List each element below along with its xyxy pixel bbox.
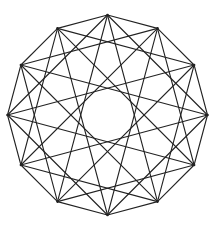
vertex-dot [106, 14, 109, 17]
chord-step-5 [58, 28, 108, 215]
vertex-dot [20, 164, 23, 167]
dodecagon-star-diagram [0, 0, 213, 239]
chord-step-5 [21, 65, 208, 115]
chord-step-1 [158, 28, 195, 65]
vertex-dot [6, 114, 9, 117]
chord-step-5 [8, 65, 195, 115]
vertex-dot [20, 64, 23, 67]
vertex-dot [156, 27, 159, 30]
chord-step-5 [21, 115, 208, 165]
chord-step-5 [21, 28, 158, 165]
chord-step-1 [194, 115, 207, 165]
chord-step-5 [58, 28, 195, 165]
chord-step-1 [8, 115, 21, 165]
vertex-dot [206, 114, 209, 117]
chord-step-5 [108, 28, 158, 215]
chord-step-1 [108, 202, 158, 215]
vertex-dot [56, 27, 59, 30]
chord-step-1 [108, 15, 158, 28]
vertex-dot [193, 164, 196, 167]
chord-step-1 [158, 165, 195, 202]
chord-step-1 [21, 165, 58, 202]
star-polygon-figure [0, 0, 213, 239]
chord-step-1 [194, 65, 207, 115]
chord-step-1 [21, 28, 58, 65]
chord-step-5 [58, 65, 195, 202]
chord-step-1 [58, 15, 108, 28]
vertex-dot [56, 200, 59, 203]
vertex-dot [106, 214, 109, 217]
vertex-dot [156, 200, 159, 203]
chord-step-1 [58, 202, 108, 215]
chord-step-5 [108, 15, 158, 202]
chord-step-5 [58, 15, 108, 202]
vertex-dot [193, 64, 196, 67]
chord-step-5 [8, 115, 195, 165]
chord-step-5 [21, 65, 158, 202]
chord-step-1 [8, 65, 21, 115]
